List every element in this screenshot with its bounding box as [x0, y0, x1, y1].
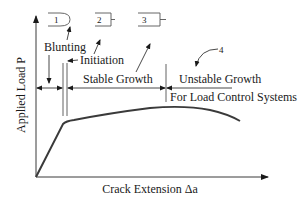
- label-blunting: Blunting: [44, 40, 86, 54]
- crack-number-2: 2: [97, 15, 102, 25]
- label-unstable-growth: Unstable Growth: [179, 72, 261, 86]
- label-stage-4-number: 4: [219, 45, 224, 55]
- crack-icon-blunting: 1: [48, 13, 70, 26]
- pointer-stable-growth: [136, 44, 150, 72]
- pointer-initiation-line: [68, 60, 78, 61]
- pointer-blunting: [67, 27, 70, 40]
- y-axis-label: Applied Load P: [14, 57, 28, 133]
- pointer-initiation: [94, 40, 100, 54]
- crack-number-1: 1: [54, 15, 59, 25]
- crack-icon-initiation: 2: [95, 13, 115, 26]
- pointer-unstable-growth: [196, 49, 218, 66]
- crack-number-3: 3: [142, 15, 147, 25]
- crack-icon-stable-growth: 3: [138, 13, 166, 26]
- x-axis-label: Crack Extension Δa: [102, 182, 198, 196]
- load-curve: [36, 107, 240, 177]
- label-initiation: Initiation: [80, 53, 124, 67]
- label-load-control-note: For Load Control Systems: [170, 90, 297, 104]
- fracture-stage-diagram: 1 2 3 Blunting Initiation Stable Growth …: [0, 0, 308, 198]
- label-stable-growth: Stable Growth: [83, 72, 153, 86]
